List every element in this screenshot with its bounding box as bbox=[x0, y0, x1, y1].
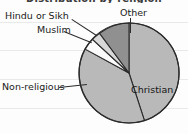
chart-title: Distribution by religion bbox=[0, 0, 188, 3]
leader-line-other bbox=[130, 18, 131, 33]
pie-graphic bbox=[78, 22, 180, 124]
slice-label-other: Other bbox=[120, 8, 147, 18]
pie-chart-figure: Distribution by religion Hindu or Sikh M… bbox=[0, 0, 188, 134]
slice-label-christian: Christian bbox=[131, 85, 173, 95]
pie-svg bbox=[78, 22, 180, 124]
slice-label-muslim: Muslim bbox=[37, 25, 71, 35]
slice-label-non-religious: Non-religious bbox=[2, 82, 65, 92]
slice-label-hindu-or-sikh: Hindu or Sikh bbox=[5, 11, 69, 21]
